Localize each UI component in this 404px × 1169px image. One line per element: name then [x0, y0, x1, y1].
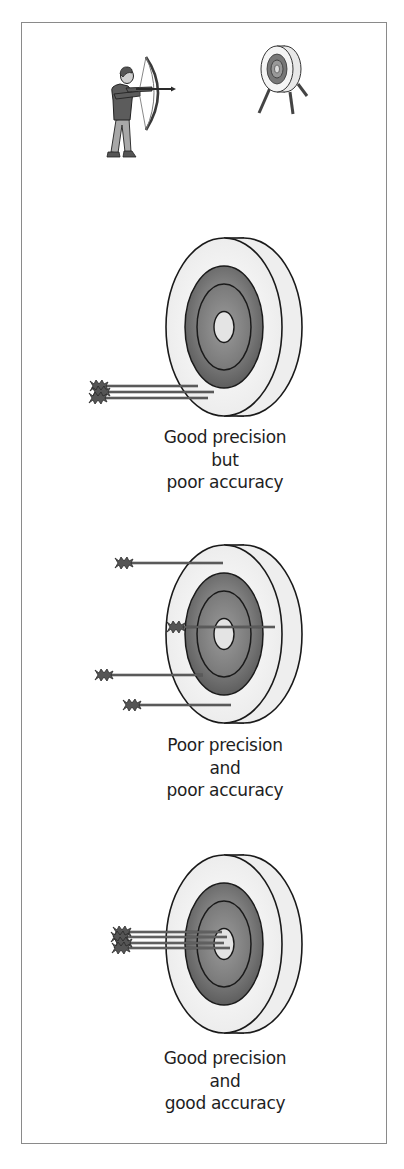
caption-line: poor accuracy: [125, 779, 325, 802]
caption-line: poor accuracy: [125, 471, 325, 494]
stand-target-icon: [259, 46, 307, 114]
archery-target-icon: [166, 238, 302, 416]
caption-line: Poor precision: [125, 734, 325, 757]
archer-icon: [107, 57, 176, 157]
caption-line: Good precision: [125, 426, 325, 449]
caption-panel-2: Poor precision and poor accuracy: [125, 734, 325, 802]
caption-line: good accuracy: [125, 1092, 325, 1115]
caption-line: and: [125, 1070, 325, 1093]
caption-panel-3: Good precision and good accuracy: [125, 1047, 325, 1115]
caption-panel-1: Good precision but poor accuracy: [125, 426, 325, 494]
target-panel-3: [111, 855, 302, 1033]
target-panel-2: [95, 545, 302, 723]
archery-target-icon: [166, 545, 302, 723]
caption-line: but: [125, 449, 325, 472]
target-panel-1: [89, 238, 302, 416]
figure-artwork: [0, 0, 404, 1169]
caption-line: and: [125, 757, 325, 780]
caption-line: Good precision: [125, 1047, 325, 1070]
